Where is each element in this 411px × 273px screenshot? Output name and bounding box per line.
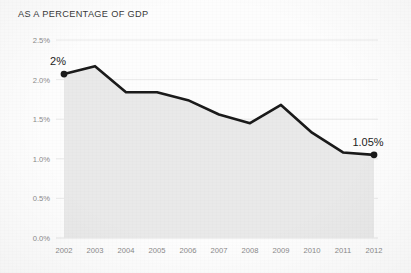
data-series (56, 40, 378, 238)
data-point-marker (61, 71, 68, 78)
x-axis-tick-label: 2009 (273, 246, 290, 255)
data-point-label: 2% (50, 55, 66, 67)
x-axis-tick-label: 2002 (56, 246, 73, 255)
y-axis-tick-label: 0.0% (33, 234, 50, 243)
y-axis-tick-label: 2.0% (33, 75, 50, 84)
y-axis-tick-label: 0.5% (33, 194, 50, 203)
x-axis-tick-label: 2003 (87, 246, 104, 255)
y-axis-tick-label: 1.5% (33, 115, 50, 124)
x-axis-tick-label: 2006 (180, 246, 197, 255)
x-axis-tick-label: 2004 (118, 246, 135, 255)
x-axis-tick-label: 2010 (304, 246, 321, 255)
x-axis-tick-label: 2005 (149, 246, 166, 255)
x-axis-tick-label: 2007 (211, 246, 228, 255)
x-axis-tick-label: 2012 (366, 246, 383, 255)
x-axis-tick-label: 2011 (335, 246, 351, 255)
chart-title: AS A PERCENTAGE OF GDP (18, 9, 149, 19)
x-axis-tick-label: 2008 (242, 246, 259, 255)
plot-area: 2%1.05% (56, 40, 378, 238)
y-axis-tick-label: 2.5% (33, 36, 50, 45)
y-axis-tick-label: 1.0% (33, 154, 50, 163)
x-axis: 2002200320042005200620072008200920102011… (56, 246, 378, 262)
chart-figure: AS A PERCENTAGE OF GDP 2.5%2.0%1.5%1.0%0… (0, 0, 411, 273)
area-fill (64, 66, 374, 238)
data-point-label: 1.05% (352, 136, 383, 148)
y-axis: 2.5%2.0%1.5%1.0%0.5%0.0% (14, 40, 50, 238)
data-point-marker (371, 151, 378, 158)
